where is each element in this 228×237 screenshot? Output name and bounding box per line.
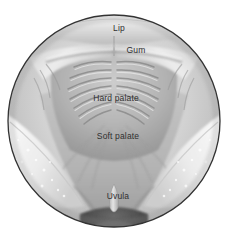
labial-frenulum [113,36,115,56]
label-soft-palate: Soft palate [97,131,139,141]
label-uvula: Uvula [107,191,129,201]
oral-cavity-illustration [0,0,228,237]
label-gum: Gum [127,45,146,55]
circular-view-contents [0,0,228,237]
anatomy-figure: Lip Gum Hard palate Soft palate Uvula [0,0,228,237]
label-hard-palate: Hard palate [93,93,139,103]
label-lip: Lip [113,23,125,33]
